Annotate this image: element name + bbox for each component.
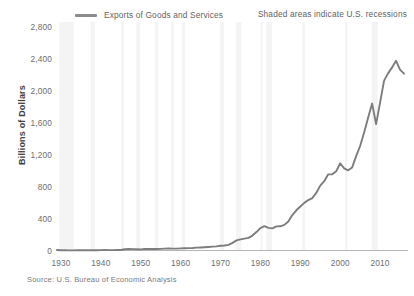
exports-series-line <box>57 61 404 251</box>
x-tick-label: 2000 <box>331 258 350 268</box>
recession-band <box>171 22 174 251</box>
recession-band <box>182 22 185 251</box>
x-tick-label: 1950 <box>131 258 150 268</box>
x-tick-label: 1980 <box>251 258 270 268</box>
x-tick-label: 1970 <box>211 258 230 268</box>
recession-band <box>345 22 347 251</box>
x-tick-label: 2010 <box>371 258 390 268</box>
recession-bands <box>59 22 377 251</box>
x-tick-label: 1960 <box>171 258 190 268</box>
x-tick-label: 1940 <box>91 258 110 268</box>
x-tick-label: 1990 <box>291 258 310 268</box>
recession-band <box>59 22 73 251</box>
recession-band <box>266 22 272 251</box>
recession-band <box>302 22 305 251</box>
recession-band <box>136 22 140 251</box>
source-note: Source: U.S. Bureau of Economic Analysis <box>27 275 177 284</box>
recession-band <box>260 22 262 251</box>
recession-band <box>372 22 378 251</box>
x-tick-label: 1930 <box>51 258 70 268</box>
recession-band <box>220 22 224 251</box>
recession-band <box>155 22 159 251</box>
recession-band <box>236 22 241 251</box>
exports-line-chart: Exports of Goods and Services Shaded are… <box>0 0 414 296</box>
plot-area <box>0 0 414 296</box>
recession-band <box>91 22 95 251</box>
recession-band <box>121 22 124 251</box>
